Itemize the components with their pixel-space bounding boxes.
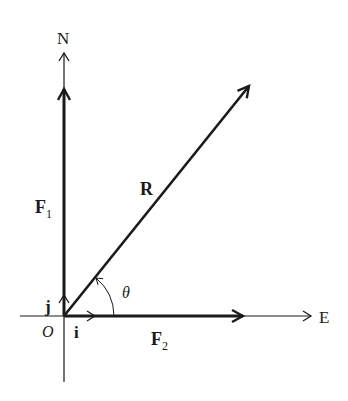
- j-label: j: [44, 297, 51, 316]
- east-label: E: [319, 308, 329, 327]
- r-label: R: [140, 179, 154, 199]
- i-label: i: [74, 323, 79, 342]
- vector-r: [64, 86, 249, 316]
- f2-label: F2: [151, 329, 168, 353]
- theta-label: θ: [122, 284, 130, 301]
- origin-label: O: [42, 323, 54, 340]
- north-label: N: [57, 29, 69, 48]
- angle-arc: [96, 278, 114, 316]
- vector-diagram: N E O F1 F2 R j i θ: [0, 0, 348, 401]
- f1-label: F1: [35, 197, 52, 221]
